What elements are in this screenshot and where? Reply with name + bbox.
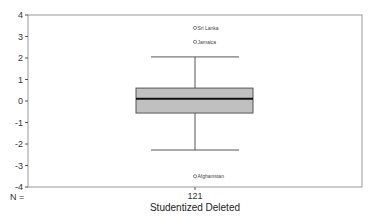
outlier-label: Sri Lanka (198, 25, 219, 31)
n-label: N = (10, 192, 24, 202)
n-value: 121 (187, 191, 202, 201)
x-axis-label: Studentized Deleted (150, 202, 240, 213)
y-tick-label: 2 (18, 53, 23, 63)
y-tick-label: 3 (18, 32, 23, 42)
outlier-marker (193, 26, 196, 29)
outlier-marker (193, 175, 196, 178)
y-tick-label: -3 (15, 161, 23, 171)
x-axis: N = 121 Studentized Deleted (10, 191, 240, 213)
iqr-box (136, 88, 253, 113)
y-tick-label: 1 (18, 75, 23, 85)
y-tick-label: -4 (15, 182, 23, 192)
outlier-marker (193, 40, 196, 43)
boxplot-chart: 43210-1-2-3-4 Sri LankaJamaicaAfghanista… (0, 0, 378, 217)
outlier-label: Jamaica (198, 39, 217, 45)
y-tick-label: -2 (15, 139, 23, 149)
y-axis: 43210-1-2-3-4 (15, 10, 28, 192)
box-series (136, 57, 253, 190)
y-tick-label: 0 (18, 96, 23, 106)
y-tick-label: -1 (15, 118, 23, 128)
y-tick-label: 4 (18, 10, 23, 20)
outlier-label: Afghanistan (198, 173, 225, 179)
